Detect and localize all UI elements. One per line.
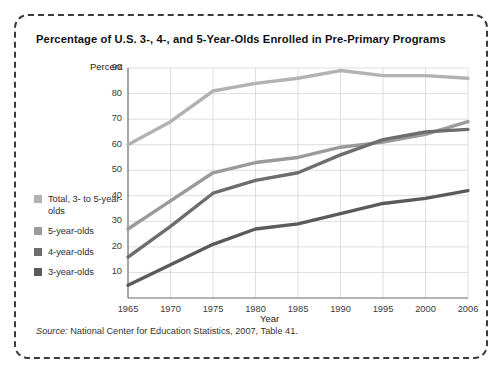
x-tick-label: 1980: [236, 304, 276, 314]
legend-item[interactable]: 3-year-olds: [34, 267, 126, 279]
legend-item-label: 3-year-olds: [48, 267, 94, 279]
legend-swatch: [34, 227, 42, 235]
figure-frame: Percentage of U.S. 3-, 4-, and 5-Year-Ol…: [14, 14, 488, 359]
legend-item-label: 5-year-olds: [48, 226, 94, 238]
source-text: National Center for Education Statistics…: [68, 326, 298, 336]
legend-item-label: Total, 3- to 5-year-olds: [48, 194, 126, 217]
x-tick-label: 1965: [108, 304, 148, 314]
gridlines: [128, 68, 468, 298]
x-tick-label: 1985: [278, 304, 318, 314]
source-prefix: Source:: [36, 326, 68, 336]
y-tick-label: 80: [96, 88, 122, 98]
line-chart: Percent Year 102030405060708090 19651970…: [16, 16, 490, 361]
legend-item-label: 4-year-olds: [48, 247, 94, 259]
y-tick-label: 70: [96, 113, 122, 123]
y-tick-label: 50: [96, 164, 122, 174]
y-tick-label: 90: [96, 62, 122, 72]
x-tick-label: 1970: [151, 304, 191, 314]
legend-swatch: [34, 195, 42, 203]
legend-item[interactable]: Total, 3- to 5-year-olds: [34, 194, 126, 217]
x-tick-label: 2000: [406, 304, 446, 314]
legend-swatch: [34, 248, 42, 256]
x-tick-label: 2006: [448, 304, 488, 314]
y-tick-label: 60: [96, 139, 122, 149]
x-tick-label: 1995: [363, 304, 403, 314]
chart-legend: Total, 3- to 5-year-olds5-year-olds4-yea…: [34, 194, 126, 288]
legend-item[interactable]: 4-year-olds: [34, 247, 126, 259]
legend-item[interactable]: 5-year-olds: [34, 226, 126, 238]
legend-swatch: [34, 268, 42, 276]
x-tick-label: 1990: [321, 304, 361, 314]
source-note: Source: National Center for Education St…: [36, 326, 298, 336]
x-tick-label: 1975: [193, 304, 233, 314]
